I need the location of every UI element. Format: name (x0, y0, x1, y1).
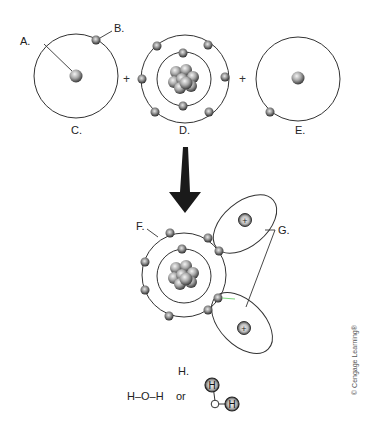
oxygen-ball-icon (211, 400, 219, 408)
leader-line-f (147, 229, 158, 237)
electron-icon (165, 312, 174, 321)
label-g: G. (278, 224, 290, 236)
svg-text:H: H (228, 399, 235, 410)
electron-icon (151, 108, 160, 117)
electron-icon (204, 306, 213, 315)
nucleus-cluster-icon (168, 64, 199, 94)
electron-icon (141, 286, 150, 295)
copyright-text: © Cengage Learning® (351, 324, 359, 395)
bond-highlight (222, 298, 235, 299)
svg-text:+: + (241, 324, 246, 334)
label-d: D. (179, 124, 190, 136)
electron-icon (153, 42, 162, 51)
electron-icon (205, 108, 214, 117)
water-molecule: F. + + (136, 183, 290, 364)
electron-icon (92, 36, 101, 45)
electron-icon (179, 49, 188, 58)
leader-line-g (246, 230, 275, 307)
electron-icon (204, 234, 213, 243)
electron-icon (141, 258, 150, 267)
electron-icon (266, 108, 275, 117)
electron-icon (138, 75, 147, 84)
electron-icon (215, 247, 224, 256)
nucleus-icon (292, 72, 305, 85)
electron-icon (166, 229, 175, 238)
reaction-arrow-icon (169, 147, 201, 213)
water-formula: H. H–O–H or H H (127, 365, 239, 411)
electron-icon (178, 245, 187, 254)
label-a: A. (20, 35, 30, 47)
electron-icon (214, 294, 223, 303)
nucleus-icon (70, 70, 83, 83)
electron-icon (204, 41, 213, 50)
hydrogen-atom-c: A. B. C. (20, 22, 124, 136)
plus-sign-2: + (239, 72, 246, 86)
label-e: E. (295, 124, 305, 136)
svg-text:+: + (242, 216, 247, 226)
label-h: H. (178, 365, 189, 377)
or-text: or (176, 390, 186, 402)
electron-icon (221, 73, 230, 82)
plus-sign-1: + (123, 72, 130, 86)
label-f: F. (136, 220, 145, 232)
oxygen-atom-d: D. (138, 35, 230, 136)
hydrogen-atom-e: E. (256, 37, 340, 136)
nucleus-cluster-icon (168, 260, 199, 290)
svg-text:H: H (208, 380, 215, 391)
leader-line-a (44, 44, 73, 72)
label-c: C. (71, 124, 82, 136)
structural-formula: H–O–H (127, 390, 164, 402)
electron-icon (179, 102, 188, 111)
hydrogen-proton-upper: + (239, 214, 252, 227)
hydrogen-proton-lower: + (238, 322, 251, 335)
label-b: B. (114, 22, 124, 34)
leader-line-b (100, 31, 112, 38)
water-formation-diagram: A. B. C. + D. + E. (0, 0, 371, 435)
